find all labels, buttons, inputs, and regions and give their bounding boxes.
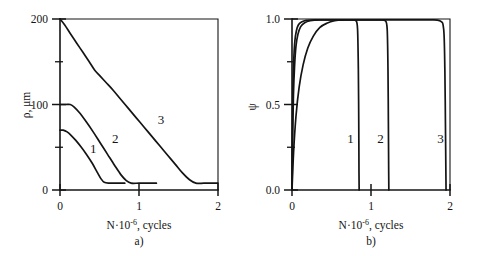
panel-b-x-axis-title: N·10-6, cycles — [339, 218, 404, 232]
panel-b-curve-label-2: 2 — [377, 131, 384, 146]
panel-a-x-axis-title: N·10-6, cycles — [107, 218, 172, 232]
panel-b-xlabel-2: 2 — [447, 200, 453, 212]
panel-b-ylabel-0p5: 0.5 — [266, 99, 281, 111]
panel-a-curve-label-3: 3 — [158, 112, 165, 127]
panel-a-axes — [60, 19, 218, 190]
panel-a-svg: 200 100 0 0 1 2 ρ, μm N·10-6, cycles a) … — [0, 0, 242, 256]
panel-a-xtitle-main: N·10 — [107, 219, 131, 231]
panel-a-ylabel-100: 100 — [31, 99, 49, 111]
panel-b-curve-label-1: 1 — [347, 131, 354, 146]
panel-a: 200 100 0 0 1 2 ρ, μm N·10-6, cycles a) … — [0, 0, 242, 256]
panel-b-svg: 1.0 0.5 0.0 0 1 2 ψ N·10-6, cycles b) 12… — [242, 0, 483, 256]
panel-b-curve-3 — [292, 20, 446, 190]
panel-b-y-axis-title: ψ — [246, 103, 259, 111]
panel-a-curve-3 — [60, 19, 218, 183]
panel-a-xtitle-tail: , cycles — [137, 219, 172, 232]
panel-b-xlabel-0: 0 — [289, 200, 295, 212]
figure-container: 200 100 0 0 1 2 ρ, μm N·10-6, cycles a) … — [0, 0, 483, 256]
panel-a-xlabel-0: 0 — [57, 200, 63, 212]
panel-b-xlabel-1: 1 — [368, 200, 374, 212]
panel-b-curves — [292, 20, 446, 190]
panel-a-ylabel-0: 0 — [42, 184, 48, 196]
panel-b-xtitle-main: N·10 — [339, 219, 363, 231]
panel-b-curve-2 — [292, 20, 389, 190]
panel-b-ylabel-1p0: 1.0 — [266, 13, 281, 25]
svg-text:N·10-6, cycles: N·10-6, cycles — [107, 218, 172, 232]
panel-b-curve-1 — [292, 20, 359, 190]
panel-b-xtitle-tail: , cycles — [369, 219, 404, 232]
panel-a-frame — [60, 19, 218, 190]
panel-a-curve-label-1: 1 — [90, 141, 97, 156]
panel-a-ylabel-200: 200 — [31, 13, 49, 25]
panel-b-curve-label-3: 3 — [437, 131, 444, 146]
panel-a-curve-label-2: 2 — [112, 131, 119, 146]
panel-b-axes — [292, 19, 450, 190]
panel-a-xlabel-1: 1 — [136, 200, 142, 212]
panel-a-xlabel-2: 2 — [215, 200, 221, 212]
panel-b-ylabel-0p0: 0.0 — [266, 184, 281, 196]
panel-a-xtitle-exp: -6 — [130, 218, 137, 227]
panel-a-y-axis-title: ρ, μm — [20, 92, 33, 119]
panel-a-curves — [60, 19, 218, 183]
panel-b-caption: b) — [366, 235, 376, 248]
panel-b-xtitle-exp: -6 — [362, 218, 369, 227]
panel-b-frame — [292, 19, 450, 190]
panel-a-curve-2 — [60, 104, 156, 183]
panel-b-curve-labels: 123 — [347, 131, 444, 146]
panel-a-curve-labels: 123 — [90, 112, 164, 156]
panel-b: 1.0 0.5 0.0 0 1 2 ψ N·10-6, cycles b) 12… — [242, 0, 483, 256]
panel-a-caption: a) — [135, 235, 144, 248]
svg-text:N·10-6, cycles: N·10-6, cycles — [339, 218, 404, 232]
